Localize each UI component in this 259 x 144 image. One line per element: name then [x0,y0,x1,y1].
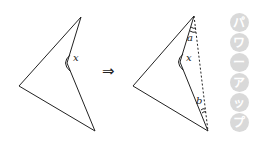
angle-a-arc [191,27,196,28]
angle-label-b: b [196,96,202,106]
tag-char: ー [230,53,249,72]
tag-char: ッ [230,93,249,112]
right-concave-quadrilateral [133,16,208,131]
power-up-tag: パ ワ ー ア ッ プ [229,13,249,132]
tag-char: プ [230,113,249,132]
tag-char: ア [230,73,249,92]
tag-char: ワ [230,33,249,52]
angle-label-a: a [187,33,193,43]
diagram-canvas [0,0,259,144]
angle-b-arc [201,109,205,110]
left-concave-quadrilateral [19,17,95,131]
implies-arrow: ⇒ [102,64,115,79]
angle-label-x-right: x [186,53,192,63]
tag-char: パ [230,13,249,32]
angle-label-x-left: x [73,53,79,63]
